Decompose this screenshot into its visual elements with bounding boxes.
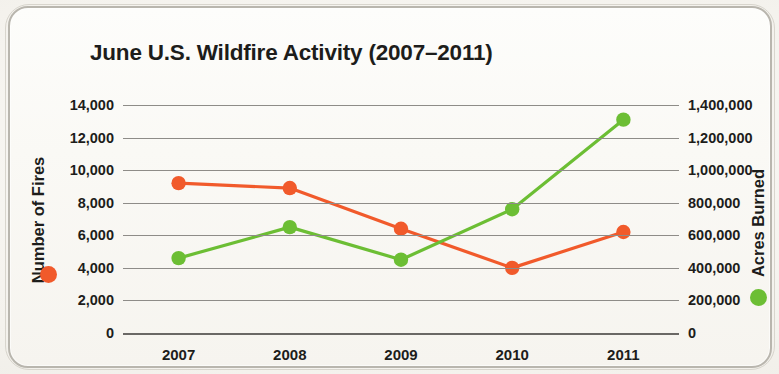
left-axis-tick-label: 0 bbox=[106, 325, 114, 341]
data-point-marker bbox=[171, 251, 185, 265]
number-of-fires-legend-dot bbox=[40, 266, 57, 283]
data-point-marker bbox=[505, 202, 519, 216]
x-axis-tick-label: 2010 bbox=[496, 346, 529, 363]
right-axis-tick-label: 800,000 bbox=[688, 195, 740, 211]
acres-burned-legend-dot bbox=[750, 289, 767, 306]
x-axis-tick-label: 2008 bbox=[273, 346, 306, 363]
series-line bbox=[179, 120, 624, 260]
gridline bbox=[123, 105, 679, 106]
gridline bbox=[123, 203, 679, 204]
left-axis-tick-label: 6,000 bbox=[78, 227, 114, 243]
right-axis-tick-label: 600,000 bbox=[688, 227, 740, 243]
right-axis-tick-label: 1,000,000 bbox=[688, 162, 753, 178]
left-axis-tick-label: 14,000 bbox=[70, 97, 114, 113]
right-axis-tick-label: 400,000 bbox=[688, 260, 740, 276]
left-axis-tick-label: 10,000 bbox=[70, 162, 114, 178]
left-axis-title: Number of Fires bbox=[29, 157, 48, 284]
data-point-marker bbox=[616, 112, 630, 126]
left-axis-tick-label: 12,000 bbox=[70, 130, 114, 146]
gridline bbox=[123, 235, 679, 236]
data-point-marker bbox=[394, 222, 408, 236]
data-point-marker bbox=[616, 225, 630, 239]
x-axis-line bbox=[123, 333, 679, 335]
left-axis-tick-label: 8,000 bbox=[78, 195, 114, 211]
data-point-marker bbox=[283, 220, 297, 234]
right-axis-tick-label: 0 bbox=[688, 325, 696, 341]
wildfire-chart-figure: June U.S. Wildfire Activity (2007–2011) … bbox=[0, 0, 779, 374]
left-axis-tick-label: 4,000 bbox=[78, 260, 114, 276]
x-axis-tick-label: 2009 bbox=[384, 346, 417, 363]
plot-area: 002,000200,0004,000400,0006,000600,0008,… bbox=[123, 105, 679, 333]
data-point-marker bbox=[283, 181, 297, 195]
right-axis-tick-label: 1,200,000 bbox=[688, 130, 753, 146]
chart-title: June U.S. Wildfire Activity (2007–2011) bbox=[90, 40, 493, 66]
gridline bbox=[123, 138, 679, 139]
x-axis-tick-label: 2011 bbox=[607, 346, 640, 363]
x-axis-tick-label: 2007 bbox=[162, 346, 195, 363]
series-lines bbox=[123, 105, 679, 333]
data-point-marker bbox=[171, 176, 185, 190]
right-axis-tick-label: 200,000 bbox=[688, 292, 740, 308]
gridline bbox=[123, 268, 679, 269]
gridline bbox=[123, 300, 679, 301]
chart-panel: June U.S. Wildfire Activity (2007–2011) … bbox=[8, 6, 772, 368]
left-axis-tick-label: 2,000 bbox=[78, 292, 114, 308]
right-axis-title: Acres Burned bbox=[749, 169, 768, 277]
gridline bbox=[123, 170, 679, 171]
right-axis-tick-label: 1,400,000 bbox=[688, 97, 753, 113]
data-point-marker bbox=[394, 253, 408, 267]
